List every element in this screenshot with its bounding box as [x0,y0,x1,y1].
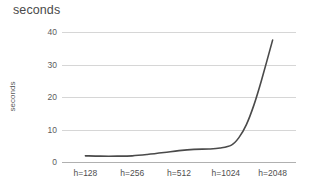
line-series-seconds [62,32,296,162]
x-axis-tick-label: h=2048 [243,168,303,178]
y-axis-tick-label: 0 [17,157,57,167]
y-axis-tick-label: 30 [17,60,57,70]
y-axis-tick-label: 20 [17,92,57,102]
y-axis-label: seconds [8,67,17,127]
series-line-path [85,40,272,156]
y-axis-tick-label: 10 [17,125,57,135]
y-axis-tick-label: 40 [17,27,57,37]
chart-title: seconds [13,3,60,17]
gridline [62,162,296,163]
chart-container: seconds seconds 010203040 h=128h=256h=51… [0,0,319,195]
plot-area [62,32,296,162]
